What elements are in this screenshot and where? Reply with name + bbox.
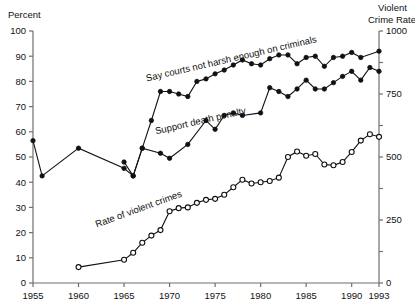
data-point xyxy=(268,57,272,61)
right-axis-tick-label: 500 xyxy=(386,151,402,162)
right-axis-tick-label: 0 xyxy=(386,277,391,288)
data-point xyxy=(140,240,145,245)
data-point xyxy=(76,265,81,270)
data-point xyxy=(267,178,272,183)
data-point xyxy=(258,180,263,185)
data-point xyxy=(313,151,318,156)
right-axis-tick-label: 250 xyxy=(386,214,402,225)
data-point xyxy=(122,160,126,164)
right-axis: 02505007501000 xyxy=(379,25,407,288)
x-axis-tick-label: 1990 xyxy=(341,290,362,301)
data-point xyxy=(167,209,172,214)
data-point xyxy=(322,64,326,68)
left-axis-tick-label: 80 xyxy=(15,76,26,87)
data-point xyxy=(176,92,180,96)
data-point xyxy=(185,205,190,210)
data-point xyxy=(31,138,35,142)
data-point xyxy=(322,87,326,91)
data-point xyxy=(213,127,217,131)
data-point xyxy=(149,118,153,122)
data-point xyxy=(167,89,171,93)
data-point xyxy=(186,142,190,146)
data-point xyxy=(76,146,80,150)
data-point xyxy=(176,206,181,211)
right-axis-tick-label: 750 xyxy=(386,88,402,99)
data-point xyxy=(186,94,190,98)
data-point xyxy=(158,89,162,93)
data-point xyxy=(367,132,372,137)
data-point xyxy=(268,86,272,90)
x-axis-tick-label: 1965 xyxy=(113,290,134,301)
data-point xyxy=(358,138,363,143)
chart-container: Percent Violent Crime Rate 0102030405060… xyxy=(0,0,415,305)
data-point xyxy=(40,174,44,178)
data-point xyxy=(377,49,381,53)
x-axis-tick-label: 1960 xyxy=(68,290,89,301)
data-point xyxy=(304,78,308,82)
x-axis-tick-label: 1980 xyxy=(250,290,271,301)
data-point xyxy=(331,163,336,168)
data-series-layer xyxy=(31,49,382,270)
left-axis-tick-label: 10 xyxy=(15,252,26,263)
data-point xyxy=(140,146,144,150)
data-point xyxy=(131,174,135,178)
data-point xyxy=(331,55,335,59)
series-annotation: Support death penalty xyxy=(154,105,247,137)
data-point xyxy=(313,54,317,58)
axis-titles: Percent Violent Crime Rate xyxy=(8,2,415,25)
left-axis-tick-label: 30 xyxy=(15,202,26,213)
data-point xyxy=(286,53,290,57)
data-point xyxy=(286,94,290,98)
data-point xyxy=(349,149,354,154)
data-point xyxy=(368,65,372,69)
right-axis-tick-label: 1000 xyxy=(386,25,407,36)
data-point xyxy=(295,149,300,154)
x-axis-tick-label: 1955 xyxy=(22,290,43,301)
data-point xyxy=(158,228,163,233)
data-point xyxy=(222,192,227,197)
data-point xyxy=(204,77,208,81)
data-point xyxy=(377,134,382,139)
left-axis-tick-label: 0 xyxy=(21,277,26,288)
data-point xyxy=(131,250,136,255)
data-point xyxy=(295,62,299,66)
left-axis-tick-label: 20 xyxy=(15,227,26,238)
data-point xyxy=(222,68,226,72)
x-axis-tick-label: 1970 xyxy=(159,290,180,301)
x-axis-tick-label: 1993 xyxy=(368,290,389,301)
data-point xyxy=(340,54,344,58)
data-point xyxy=(249,181,254,186)
series-line xyxy=(79,134,379,267)
data-point xyxy=(204,197,209,202)
data-point xyxy=(295,87,299,91)
left-axis-tick-label: 40 xyxy=(15,177,26,188)
left-axis-tick-label: 90 xyxy=(15,51,26,62)
right-axis-title-line1: Violent xyxy=(378,2,407,13)
data-point xyxy=(359,78,363,82)
data-point xyxy=(213,196,218,201)
data-point xyxy=(331,80,335,84)
left-axis-tick-label: 100 xyxy=(10,25,26,36)
data-point xyxy=(231,185,236,190)
data-point xyxy=(304,55,308,59)
data-point xyxy=(158,151,162,155)
right-axis-title-line2: Crime Rate xyxy=(368,14,415,25)
data-point xyxy=(377,69,381,73)
data-point xyxy=(258,63,262,67)
data-point xyxy=(213,72,217,76)
data-point xyxy=(276,175,281,180)
data-point xyxy=(359,55,363,59)
data-point xyxy=(240,177,245,182)
data-point xyxy=(194,200,199,205)
left-axis-tick-label: 70 xyxy=(15,101,26,112)
data-point xyxy=(349,69,353,73)
data-point xyxy=(304,153,309,158)
data-point xyxy=(149,233,154,238)
x-axis: 195519601965197019751980198519901993 xyxy=(22,283,389,301)
data-point xyxy=(258,111,262,115)
data-point xyxy=(249,62,253,66)
left-axis-tick-label: 60 xyxy=(15,126,26,137)
violent-crime-and-opinion-line-chart: Percent Violent Crime Rate 0102030405060… xyxy=(0,0,415,305)
data-point xyxy=(277,53,281,57)
data-point xyxy=(322,162,327,167)
